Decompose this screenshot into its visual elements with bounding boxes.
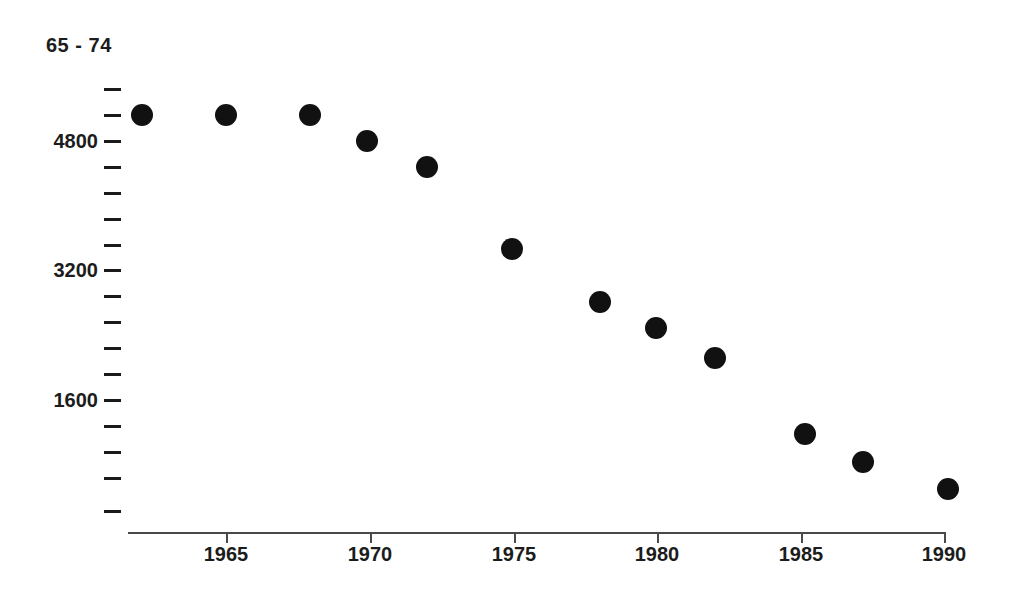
y-axis-tick-label: 3200	[54, 259, 99, 282]
data-point	[416, 156, 438, 178]
y-axis-tick-mark	[104, 244, 121, 247]
y-axis-tick-mark	[104, 425, 121, 428]
x-axis-tick-mark	[226, 532, 228, 543]
x-axis-tick-label: 1990	[922, 543, 967, 566]
x-axis-tick-label: 1985	[779, 543, 824, 566]
data-point	[501, 238, 523, 260]
x-axis-tick-label: 1980	[635, 543, 680, 566]
y-axis-tick-mark	[104, 373, 121, 376]
y-axis-tick-mark	[104, 295, 121, 298]
y-axis-tick-label: 1600	[54, 389, 99, 412]
series-label: 65 - 74	[46, 34, 112, 57]
y-axis-tick-mark	[104, 218, 121, 221]
y-axis-tick-mark	[104, 140, 121, 143]
scatter-chart: 65 - 74 480032001600 1965197019751980198…	[0, 0, 1017, 614]
data-point	[937, 478, 959, 500]
data-point	[215, 104, 237, 126]
data-point	[356, 130, 378, 152]
x-axis-tick-mark	[514, 532, 516, 543]
y-axis-tick-mark	[104, 451, 121, 454]
x-axis-tick-label: 1965	[204, 543, 249, 566]
x-axis-line	[128, 532, 946, 534]
x-axis-tick-mark	[370, 532, 372, 543]
y-axis-tick-mark	[104, 321, 121, 324]
data-point	[131, 104, 153, 126]
data-point	[645, 317, 667, 339]
x-axis-tick-mark	[657, 532, 659, 543]
x-axis-tick-mark	[944, 532, 946, 543]
y-axis-tick-mark	[104, 477, 121, 480]
x-axis-tick-mark	[801, 532, 803, 543]
y-axis-tick-mark	[104, 166, 121, 169]
data-point	[852, 451, 874, 473]
x-axis-tick-label: 1970	[348, 543, 393, 566]
x-axis-tick-label: 1975	[492, 543, 537, 566]
y-axis-tick-mark	[104, 192, 121, 195]
data-point	[794, 423, 816, 445]
y-axis-tick-mark	[104, 399, 121, 402]
y-axis-tick-label: 4800	[54, 130, 99, 153]
y-axis-tick-mark	[104, 347, 121, 350]
data-point	[299, 104, 321, 126]
data-point	[704, 347, 726, 369]
y-axis-tick-mark	[104, 510, 121, 513]
y-axis-tick-mark	[104, 269, 121, 272]
y-axis-tick-mark	[104, 114, 121, 117]
data-point	[589, 291, 611, 313]
y-axis-tick-mark	[104, 88, 121, 91]
